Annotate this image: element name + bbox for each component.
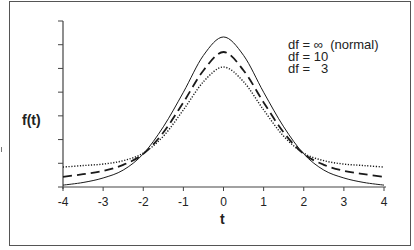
legend: df = ∞ (normal) df = 10 df = 3 [288, 37, 379, 76]
x-tick-label: -1 [178, 195, 189, 209]
x-tick-label: 4 [381, 195, 388, 209]
curve-df10 [63, 52, 384, 177]
x-tick-label: 2 [300, 195, 307, 209]
x-tick-label: -3 [98, 195, 109, 209]
x-tick-label: 0 [220, 195, 227, 209]
x-axis-title: t [220, 211, 225, 227]
curves [63, 37, 384, 185]
y-axis [58, 21, 63, 189]
x-tick-label: -2 [138, 195, 149, 209]
legend-item-df3: df = 3 [288, 61, 328, 76]
y-axis-title: f(t) [22, 112, 41, 128]
t-distribution-chart: -4-3-2-101234 f(t) t df = ∞ (normal) df … [0, 0, 414, 250]
curve-df3 [63, 67, 384, 167]
x-tick-label: 3 [341, 195, 348, 209]
x-tick-label: 1 [260, 195, 267, 209]
x-tick-label: -4 [58, 195, 69, 209]
x-axis: -4-3-2-101234 [58, 187, 388, 209]
